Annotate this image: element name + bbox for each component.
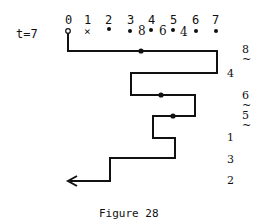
dot-icon <box>194 29 198 33</box>
dot-icon <box>214 29 218 33</box>
dot-icon <box>171 28 175 32</box>
dot-icon <box>107 27 111 31</box>
dot-icon <box>138 48 143 53</box>
dot-icon <box>149 28 153 32</box>
figure-caption: Figure 28 <box>99 207 159 220</box>
staircase-path <box>68 33 217 181</box>
dot-icon <box>158 92 163 97</box>
path-diagram <box>0 0 264 223</box>
dot-icon <box>170 113 175 118</box>
open-circle-icon <box>66 29 71 34</box>
dot-icon <box>128 29 132 33</box>
